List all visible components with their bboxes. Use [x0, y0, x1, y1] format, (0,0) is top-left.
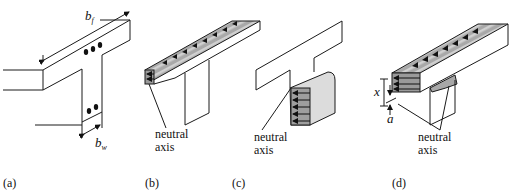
panel-label-a: (a) — [3, 176, 16, 191]
panel-label-c: (c) — [232, 176, 245, 191]
reinforcement-bars — [84, 42, 102, 114]
label-bf: bf — [85, 9, 94, 27]
label-a: a — [387, 112, 394, 125]
panel-a-tbeam — [3, 12, 130, 138]
neutral-axis-label-b: neutral axis — [155, 128, 188, 154]
neutral-axis-label-d: neutral axis — [418, 131, 451, 157]
panel-label-d: (d) — [392, 176, 406, 191]
neutral-axis-label-c: neutral axis — [254, 131, 287, 157]
t-beam-diagram — [0, 0, 512, 193]
label-bw: bw — [95, 136, 107, 154]
panel-d-beam — [380, 24, 508, 130]
panel-label-b: (b) — [145, 176, 159, 191]
panel-c-beam — [256, 21, 342, 130]
panel-b-beam — [145, 21, 260, 128]
label-x: x — [374, 85, 380, 98]
